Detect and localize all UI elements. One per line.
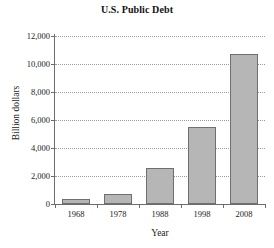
x-tick-mark — [97, 204, 98, 208]
y-axis-title: Billion dollars — [11, 63, 21, 163]
y-tick-labels-group: 02,0004,0006,0008,00010,00012,000 — [0, 0, 50, 248]
x-tick-label-1978: 1978 — [97, 210, 139, 219]
bar-chart-figure: U.S. Public Debt 02,0004,0006,0008,00010… — [0, 0, 274, 248]
x-axis-title: Year — [55, 228, 265, 238]
x-tick-mark — [265, 204, 266, 208]
bar-1988 — [146, 168, 174, 204]
bar-1968 — [62, 199, 90, 204]
plot-area — [55, 36, 265, 204]
y-tick-label: 12,000 — [4, 32, 50, 41]
y-tick-label: 2,000 — [4, 172, 50, 181]
x-tick-mark — [181, 204, 182, 208]
y-tick-label: 0 — [4, 200, 50, 209]
x-tick-mark — [139, 204, 140, 208]
x-tick-mark — [55, 204, 56, 208]
x-tick-label-1998: 1998 — [181, 210, 223, 219]
bar-2008 — [230, 54, 258, 204]
bar-1998 — [188, 127, 216, 204]
x-tick-label-1988: 1988 — [139, 210, 181, 219]
bar-1978 — [104, 194, 132, 204]
x-tick-label-2008: 2008 — [223, 210, 265, 219]
x-tick-mark — [223, 204, 224, 208]
x-tick-label-1968: 1968 — [55, 210, 97, 219]
x-axis-line — [54, 204, 266, 205]
